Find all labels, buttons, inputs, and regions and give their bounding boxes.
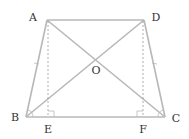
label-C: C xyxy=(172,112,180,125)
label-A: A xyxy=(28,11,38,24)
label-E: E xyxy=(44,123,52,136)
right-angle-mark-E xyxy=(48,111,54,117)
label-O: O xyxy=(91,64,100,77)
label-D: D xyxy=(152,11,161,24)
trapezoid-diagram: A D B C E F O xyxy=(0,0,189,139)
label-F: F xyxy=(139,123,147,136)
diagram-canvas: A D B C E F O xyxy=(0,0,189,139)
right-angle-mark-F xyxy=(137,111,143,117)
label-B: B xyxy=(11,111,19,124)
